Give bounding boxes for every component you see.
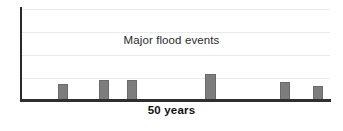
bar-5 [280,82,290,100]
gridline-2 [21,32,330,33]
series-annotation-label: Major flood events [0,34,343,46]
bar-6 [313,86,323,100]
x-axis-line [20,99,331,102]
bar-1 [58,84,68,100]
y-axis-line [20,7,22,101]
x-axis-label: 50 years [0,104,343,116]
bar-3 [127,80,137,100]
gridline-4 [21,78,330,79]
gridline-3 [21,55,330,56]
bar-4 [205,74,216,100]
bar-2 [99,80,109,100]
plot-area [21,8,330,100]
gridline-1 [21,9,330,10]
flood-events-bar-chart: Major flood events 50 years [0,0,343,131]
